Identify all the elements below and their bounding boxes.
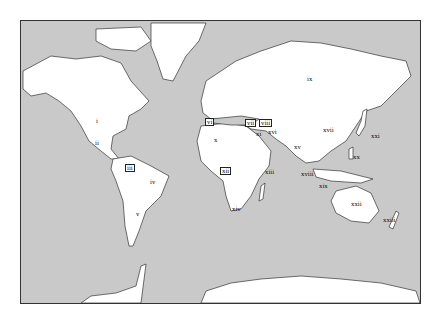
region-label-xv: xv bbox=[294, 144, 301, 150]
region-label-xxii: xxii bbox=[351, 201, 362, 207]
map-land-svg bbox=[21, 21, 420, 303]
region-label-xxiii: xxiii bbox=[383, 217, 396, 223]
region-label-xix: xix bbox=[319, 183, 328, 189]
madagascar bbox=[259, 183, 265, 201]
antarctic-peninsula bbox=[81, 264, 146, 303]
arctic-islands bbox=[96, 27, 151, 51]
region-label-ix: ix bbox=[307, 76, 312, 82]
region-label-xxi: xxi bbox=[371, 133, 380, 139]
region-label-vi: vi bbox=[205, 118, 214, 126]
region-label-x: x bbox=[214, 137, 217, 143]
north-america bbox=[23, 56, 149, 159]
greenland bbox=[151, 23, 206, 81]
region-label-viii: viii bbox=[259, 119, 272, 127]
region-label-xx: xx bbox=[353, 154, 360, 160]
region-label-v: v bbox=[136, 211, 139, 217]
region-label-xviii: xviii bbox=[301, 171, 314, 177]
south-america bbox=[111, 156, 169, 246]
region-label-xii: xii bbox=[220, 167, 231, 175]
region-label-i: i bbox=[96, 118, 98, 124]
region-label-xiii: xiii bbox=[265, 169, 274, 175]
region-label-xi: xi bbox=[256, 131, 261, 137]
region-label-xvii: xvii bbox=[323, 127, 334, 133]
region-label-xvi: xvi bbox=[268, 129, 277, 135]
region-label-iii: iii bbox=[125, 164, 135, 172]
region-label-vii: vii bbox=[245, 119, 256, 127]
region-label-iv: iv bbox=[150, 179, 155, 185]
antarctica bbox=[201, 276, 420, 303]
indonesia bbox=[313, 169, 373, 183]
world-map: iiiiiiivvviviiviiiixxxixiixiiixivxvxvixv… bbox=[20, 20, 421, 304]
region-label-xiv: xiv bbox=[232, 206, 241, 212]
region-label-ii: ii bbox=[95, 140, 99, 146]
